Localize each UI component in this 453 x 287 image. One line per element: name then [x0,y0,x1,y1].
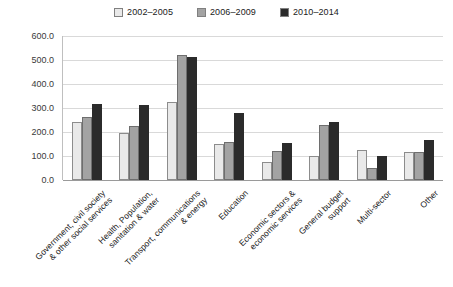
bar[interactable] [262,162,272,180]
bar[interactable] [224,142,234,180]
bar[interactable] [129,126,139,180]
bar-group [253,36,301,180]
bar[interactable] [424,140,434,180]
x-axis-labels: Government, civil society & other social… [62,188,443,287]
bar[interactable] [234,113,244,180]
bar-group [301,36,349,180]
bar[interactable] [82,117,92,180]
bar-group [63,36,111,180]
bar-group [158,36,206,180]
bar[interactable] [414,152,424,180]
bar-group [111,36,159,180]
bar[interactable] [367,168,377,180]
bar[interactable] [404,152,414,180]
bar[interactable] [72,122,82,180]
chart-legend: 2002–20052006–20092010–2014 [0,7,453,17]
bar-group [396,36,444,180]
legend-swatch-icon [114,8,123,17]
bar[interactable] [139,105,149,180]
legend-item[interactable]: 2002–2005 [114,7,173,17]
plot-wrapper: 600.0500.0400.0300.0200.0100.00.0 [0,26,453,186]
bar[interactable] [377,156,387,180]
y-axis-tick-label: 600.0 [31,31,54,41]
legend-item[interactable]: 2006–2009 [197,7,256,17]
legend-label: 2006–2009 [210,7,256,17]
legend-swatch-icon [280,8,289,17]
y-axis-tick-label: 0.0 [41,175,54,185]
y-axis-tick-label: 200.0 [31,127,54,137]
bar[interactable] [214,144,224,180]
bar-chart: 2002–20052006–20092010–2014 600.0500.040… [0,0,453,287]
bar[interactable] [92,104,102,180]
y-axis-tick-label: 500.0 [31,55,54,65]
x-axis-line [63,180,443,181]
y-axis-tick-label: 100.0 [31,151,54,161]
bar[interactable] [319,125,329,180]
legend-label: 2010–2014 [293,7,339,17]
legend-item[interactable]: 2010–2014 [280,7,339,17]
legend-swatch-icon [197,8,206,17]
bar[interactable] [177,55,187,180]
bar-groups [63,36,443,180]
legend-label: 2002–2005 [127,7,173,17]
bar[interactable] [187,57,197,180]
bar[interactable] [282,143,292,180]
bar[interactable] [119,133,129,180]
bar-group [206,36,254,180]
bar[interactable] [329,122,339,180]
bar[interactable] [309,156,319,180]
bar-group [348,36,396,180]
y-axis-labels: 600.0500.0400.0300.0200.0100.00.0 [0,26,58,186]
bar[interactable] [272,151,282,180]
plot-area [62,36,443,180]
bar[interactable] [357,150,367,180]
y-axis-tick-label: 400.0 [31,79,54,89]
bar[interactable] [167,102,177,180]
y-axis-tick-label: 300.0 [31,103,54,113]
